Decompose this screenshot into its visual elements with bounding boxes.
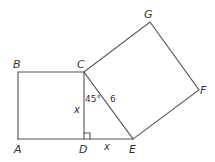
geometry-diagram: B C G F A D E 45° 6 x x: [0, 0, 215, 162]
label-f: F: [200, 84, 207, 97]
hypotenuse-ce: [84, 72, 133, 139]
label-a: A: [13, 143, 22, 156]
right-angle-marker: [84, 133, 90, 139]
label-c: C: [77, 58, 85, 71]
label-b: B: [13, 58, 21, 71]
label-d: D: [79, 143, 87, 156]
label-g: G: [144, 8, 153, 21]
side-cd-label: x: [73, 104, 80, 115]
label-e: E: [129, 143, 136, 156]
square-cefg: [84, 22, 199, 139]
angle-label-45: 45°: [85, 94, 101, 104]
side-de-label: x: [103, 141, 110, 152]
hypotenuse-length-label: 6: [110, 94, 116, 104]
